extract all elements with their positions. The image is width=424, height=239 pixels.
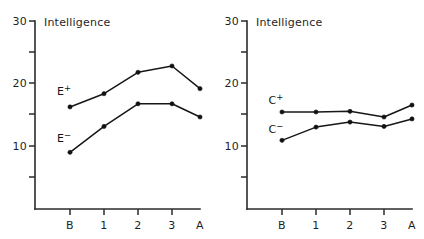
y-tick-label-10: 10 bbox=[224, 140, 239, 153]
x-tick-label-B: B bbox=[278, 219, 286, 232]
figure-container: 30 20 10 Intelligence B 1 2 3 A E+ bbox=[0, 0, 424, 239]
series-group-lower-right bbox=[280, 117, 414, 143]
data-point bbox=[198, 87, 202, 91]
x-tick-label-A: A bbox=[408, 219, 416, 232]
panel-title-left: Intelligence bbox=[44, 16, 110, 29]
x-tick-label-3: 3 bbox=[380, 219, 387, 232]
chart-panel-left: 30 20 10 Intelligence B 1 2 3 A E+ bbox=[0, 0, 212, 239]
chart-panel-right: 30 20 10 Intelligence B 1 2 3 A C+ C− bbox=[212, 0, 424, 239]
x-tick-label-2: 2 bbox=[346, 219, 353, 232]
y-tick-label-30: 30 bbox=[224, 15, 239, 28]
series-group-upper-left bbox=[68, 64, 202, 109]
y-tick-label-20: 20 bbox=[12, 77, 27, 90]
series-label-lower-right: C− bbox=[269, 121, 284, 136]
data-point bbox=[170, 64, 174, 68]
x-tick-label-1: 1 bbox=[100, 219, 107, 232]
series-label-upper-left-sup: + bbox=[64, 83, 71, 93]
y-tick-label-30: 30 bbox=[12, 15, 27, 28]
series-group-upper-right bbox=[280, 103, 414, 119]
data-point bbox=[280, 110, 284, 114]
series-line-C+ bbox=[282, 105, 412, 117]
data-point bbox=[198, 115, 202, 119]
data-point bbox=[102, 124, 106, 128]
panel-title-right: Intelligence bbox=[256, 16, 322, 29]
x-tick-label-A: A bbox=[196, 219, 204, 232]
series-label-upper-right: C+ bbox=[269, 92, 284, 107]
chart-svg-right: 30 20 10 Intelligence B 1 2 3 A C+ C− bbox=[212, 0, 424, 239]
series-line-E− bbox=[70, 104, 200, 153]
data-point bbox=[382, 115, 386, 119]
series-label-lower-left-base: E bbox=[57, 132, 64, 145]
series-label-upper-right-sup: + bbox=[276, 92, 283, 102]
series-label-upper-left: E+ bbox=[57, 83, 71, 98]
series-label-lower-right-sup: − bbox=[276, 121, 283, 131]
chart-svg-left: 30 20 10 Intelligence B 1 2 3 A E+ bbox=[0, 0, 212, 239]
x-tick-label-2: 2 bbox=[134, 219, 141, 232]
data-point bbox=[410, 117, 414, 121]
data-point bbox=[348, 120, 352, 124]
x-tick-label-1: 1 bbox=[312, 219, 319, 232]
data-point bbox=[410, 103, 414, 107]
data-point bbox=[102, 92, 106, 96]
series-label-lower-left: E− bbox=[57, 130, 71, 145]
data-point bbox=[68, 150, 72, 154]
data-point bbox=[136, 70, 140, 74]
data-point bbox=[280, 138, 284, 142]
y-tick-label-20: 20 bbox=[224, 77, 239, 90]
data-point bbox=[136, 102, 140, 106]
series-group-lower-left bbox=[68, 102, 202, 155]
data-point bbox=[170, 102, 174, 106]
data-point bbox=[382, 124, 386, 128]
data-point bbox=[314, 110, 318, 114]
x-tick-label-B: B bbox=[66, 219, 74, 232]
series-line-C− bbox=[282, 119, 412, 140]
x-tick-label-3: 3 bbox=[168, 219, 175, 232]
y-tick-label-10: 10 bbox=[12, 140, 27, 153]
data-point bbox=[348, 109, 352, 113]
data-point bbox=[68, 105, 72, 109]
series-label-lower-left-sup: − bbox=[64, 130, 71, 140]
data-point bbox=[314, 125, 318, 129]
series-label-upper-left-base: E bbox=[57, 85, 64, 98]
series-line-E+ bbox=[70, 66, 200, 107]
